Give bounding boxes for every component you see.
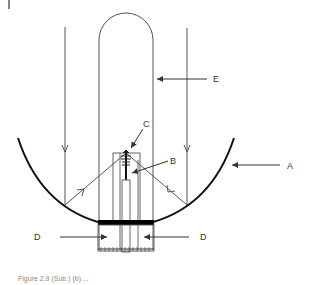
solar-collector-diagram: E A C B D D bbox=[0, 0, 310, 285]
label-D-left: D bbox=[34, 232, 41, 242]
label-A: A bbox=[287, 161, 293, 171]
label-E: E bbox=[213, 74, 219, 84]
reflected-ray-right bbox=[126, 153, 187, 205]
glass-tube bbox=[99, 13, 153, 250]
label-D-right: D bbox=[200, 232, 207, 242]
leader-C bbox=[131, 129, 143, 148]
base-box bbox=[98, 225, 154, 251]
rod-sleeve bbox=[122, 180, 130, 252]
absorber-plate bbox=[98, 220, 154, 225]
reflected-ray-left bbox=[65, 153, 126, 205]
coil-top bbox=[123, 150, 129, 153]
figure-caption: Figure 2.9 (Sub.) (b) ... bbox=[18, 275, 89, 282]
label-B: B bbox=[170, 156, 176, 166]
label-C: C bbox=[143, 119, 150, 129]
